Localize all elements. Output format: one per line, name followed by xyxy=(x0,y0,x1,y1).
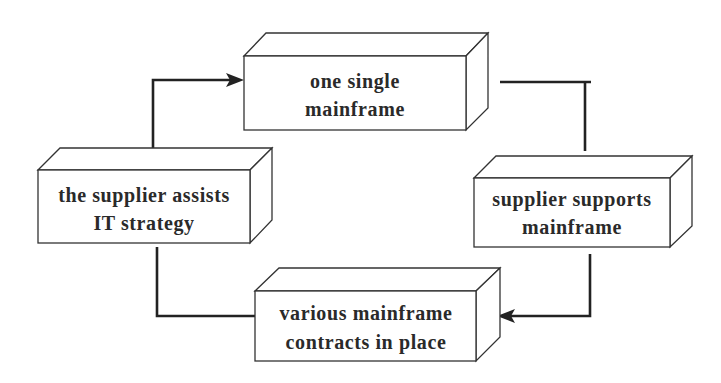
node-label-line: contracts in place xyxy=(286,331,447,354)
node-supplier-supports-mainframe: supplier supports mainframe xyxy=(474,156,692,247)
node-label-line: various mainframe xyxy=(280,302,453,324)
node-label-line: IT strategy xyxy=(93,212,194,235)
node-label-line: mainframe xyxy=(522,216,622,238)
connector-left-to-top xyxy=(153,73,244,148)
node-label-line: mainframe xyxy=(305,98,405,120)
node-label-line: one single xyxy=(310,70,400,93)
node-supplier-assists-it-strategy: the supplier assists IT strategy xyxy=(38,148,272,243)
node-label-line: supplier supports xyxy=(492,188,651,211)
node-one-single-mainframe: one single mainframe xyxy=(244,33,488,130)
connector-top-to-right xyxy=(500,82,591,151)
connector-right-to-bottom xyxy=(497,254,590,323)
connector-bottom-to-left xyxy=(157,247,255,316)
cycle-diagram: one single mainframe the supplier assist… xyxy=(0,0,721,383)
node-various-mainframe-contracts: various mainframe contracts in place xyxy=(255,268,500,361)
node-label-line: the supplier assists xyxy=(58,184,230,207)
